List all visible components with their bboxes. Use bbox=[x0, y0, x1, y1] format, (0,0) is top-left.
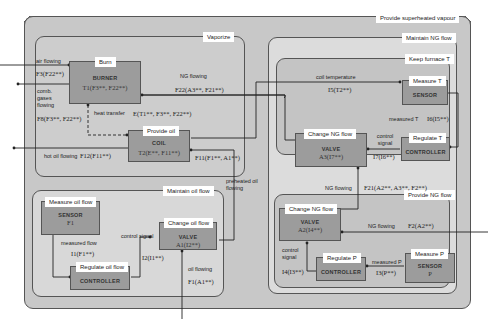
measured-t-expr: I6(I5**) bbox=[427, 115, 449, 123]
burner-component[interactable]: BURNER T1(F3**, F22**) bbox=[69, 61, 141, 104]
ng-flowing-f2-label: NG flowing bbox=[368, 223, 395, 230]
preheated-oil-label: preheated oil flowing bbox=[226, 178, 258, 192]
oil-flowing-expr: F1(A1**) bbox=[188, 278, 214, 286]
control-signal-p-label: control signal bbox=[282, 247, 304, 261]
control-signal-p-expr: I4(I3**) bbox=[282, 268, 304, 276]
measured-p-expr: I3(P**) bbox=[376, 269, 396, 277]
measured-p-label: measured P bbox=[372, 259, 402, 266]
valve-a2-expr: A2(I4**) bbox=[280, 226, 340, 233]
sensor-f1-function: Measure oil flow bbox=[45, 197, 96, 207]
measured-flow-label: measured flow bbox=[61, 240, 97, 247]
burner-expr: T1(F3**, F22**) bbox=[70, 84, 140, 91]
controller-p-function: Regulate P bbox=[323, 253, 361, 263]
control-signal-t-label: control signal bbox=[374, 133, 396, 147]
controller-t-name: CONTROLLER bbox=[402, 149, 449, 155]
oil-flowing-label: oil flowing bbox=[188, 266, 212, 273]
heat-transfer-label: heat transfer bbox=[94, 110, 125, 117]
control-signal-t-expr: I7(I6**) bbox=[373, 153, 395, 161]
valve-a3-name: VALVE bbox=[296, 146, 366, 152]
comb-gases-label: comb. gases flowing bbox=[37, 88, 63, 109]
controller-oil-function: Regulate oil flow bbox=[76, 262, 128, 272]
measured-flow-expr: I1(F1**) bbox=[71, 250, 94, 258]
sensor-t-name: SENSOR bbox=[403, 92, 447, 98]
ng-flowing-f21-label: NG flowing bbox=[325, 185, 352, 192]
burner-function: Burn bbox=[95, 57, 116, 67]
ng-flowing-f22-expr: F22(A3**, F21**) bbox=[175, 86, 224, 94]
controller-oil-name: CONTROLLER bbox=[71, 278, 129, 284]
coil-expr: T2(E**, F11**) bbox=[129, 149, 189, 156]
control-signal-oil-label: control signal bbox=[121, 233, 153, 240]
valve-a3-function: Change NG flow bbox=[304, 129, 356, 139]
preheated-oil-expr: F11(F1**, A1**) bbox=[195, 154, 240, 162]
coil-name: COIL bbox=[129, 140, 189, 146]
valve-a2-name: VALVE bbox=[280, 219, 340, 225]
measured-t-label: measured T bbox=[389, 116, 418, 123]
sensor-p-expr: P bbox=[406, 270, 454, 277]
valve-a2-function: Change NG flow bbox=[285, 204, 337, 214]
coil-temp-label: coil temperature bbox=[316, 74, 355, 81]
air-flowing-label: air flowing bbox=[36, 58, 61, 65]
control-signal-oil-expr: I2(I1**) bbox=[142, 254, 164, 262]
sensor-t-function: Measure T bbox=[409, 76, 446, 86]
coil-temp-expr: I5(T2**) bbox=[328, 86, 351, 94]
sensor-p-name: SENSOR bbox=[406, 263, 454, 269]
sensor-f1-expr: F1 bbox=[42, 219, 99, 226]
ng-flowing-f22-label: NG flowing bbox=[180, 73, 207, 80]
controller-t-function: Regulate T bbox=[409, 133, 446, 143]
valve-a1-name: VALVE bbox=[160, 234, 216, 240]
sensor-p-function: Measure P bbox=[411, 249, 448, 259]
heat-transfer-expr: E(T1**, F3**, F22**) bbox=[133, 110, 192, 118]
hot-oil-expr: F12(F11**) bbox=[80, 152, 111, 160]
controller-p-name: CONTROLLER bbox=[317, 269, 365, 275]
air-flowing-expr: F3(F22**) bbox=[36, 70, 64, 78]
valve-a1-function: Change oil flow bbox=[164, 218, 213, 228]
coil-function: Provide oil bbox=[143, 126, 179, 136]
burner-name: BURNER bbox=[70, 75, 140, 81]
ng-flowing-f2-expr: F2(A2**) bbox=[408, 222, 434, 230]
sensor-f1-name: SENSOR bbox=[42, 212, 99, 218]
valve-a3-expr: A3(I7**) bbox=[296, 153, 366, 160]
hot-oil-label: hot oil flowing bbox=[44, 153, 77, 160]
ng-flowing-f21-expr: F21(A2**, A3**, F2**) bbox=[364, 184, 427, 192]
valve-a1-expr: A1(I2**) bbox=[160, 241, 216, 248]
comb-gases-expr: F8(F3**, F22**) bbox=[37, 115, 81, 123]
